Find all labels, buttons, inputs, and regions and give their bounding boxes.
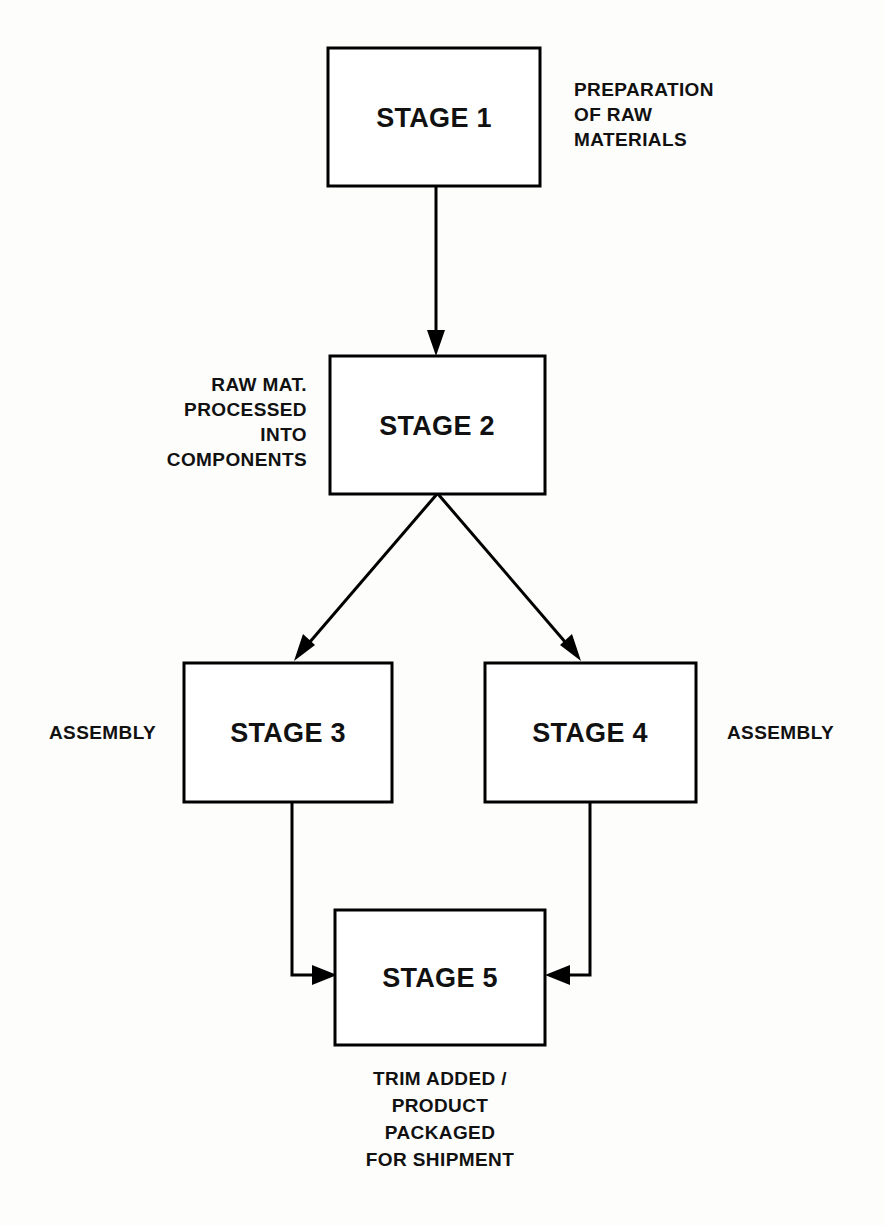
node-stage4-label: STAGE 4 [532,718,648,748]
caption-stage1-line-3: MATERIALS [574,129,687,150]
caption-stage1-line-2: OF RAW [574,104,652,125]
edge-stage1-to-stage2 [427,186,445,356]
caption-stage5-line-1: TRIM ADDED / [373,1068,507,1089]
node-stage2-label: STAGE 2 [379,411,495,441]
caption-stage3-line-1: ASSEMBLY [49,722,156,743]
node-stage3[interactable]: STAGE 3 [184,663,392,802]
caption-stage3: ASSEMBLY [49,722,156,743]
edge-stage2-to-stage4 [438,494,581,661]
node-stage1[interactable]: STAGE 1 [328,48,540,186]
node-stage4[interactable]: STAGE 4 [485,663,696,802]
caption-stage5-line-2: PRODUCT [392,1095,489,1116]
flowchart-diagram: STAGE 1 STAGE 2 STAGE 3 STAGE 4 STAGE 5 … [0,0,884,1226]
caption-stage2-line-3: INTO [260,424,307,445]
caption-stage5: TRIM ADDED / PRODUCT PACKAGED FOR SHIPME… [366,1068,514,1170]
caption-stage4: ASSEMBLY [727,722,834,743]
caption-stage5-line-3: PACKAGED [385,1122,496,1143]
caption-stage2-line-2: PROCESSED [184,399,307,420]
caption-stage5-line-4: FOR SHIPMENT [366,1149,514,1170]
node-stage1-label: STAGE 1 [376,103,492,133]
edge-stage3-to-stage5 [292,802,337,985]
flowchart-canvas: STAGE 1 STAGE 2 STAGE 3 STAGE 4 STAGE 5 … [0,0,884,1226]
caption-stage1-line-1: PREPARATION [574,79,714,100]
edge-stage4-to-stage5 [545,802,590,985]
caption-stage4-line-1: ASSEMBLY [727,722,834,743]
node-stage5-label: STAGE 5 [382,963,498,993]
caption-stage2-line-1: RAW MAT. [211,374,307,395]
node-stage5[interactable]: STAGE 5 [335,910,545,1045]
node-stage3-label: STAGE 3 [230,718,346,748]
edge-stage2-to-stage3 [294,494,437,661]
node-stage2[interactable]: STAGE 2 [330,356,545,494]
caption-stage1: PREPARATION OF RAW MATERIALS [574,79,714,150]
caption-stage2: RAW MAT. PROCESSED INTO COMPONENTS [167,374,307,470]
caption-stage2-line-4: COMPONENTS [167,449,307,470]
